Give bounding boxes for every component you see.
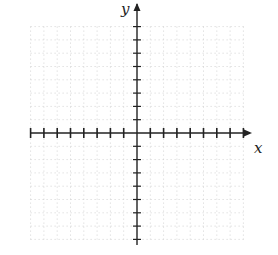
coordinate-plane xyxy=(0,0,278,255)
y-axis-arrow-icon xyxy=(134,3,141,11)
x-axis xyxy=(31,128,252,138)
x-axis-arrow-icon xyxy=(244,130,252,137)
y-axis-label: y xyxy=(121,2,129,17)
x-axis-label: x xyxy=(254,141,262,156)
y-axis xyxy=(133,3,141,245)
